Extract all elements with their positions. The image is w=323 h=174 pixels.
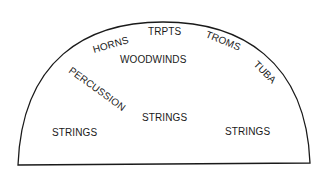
label-woodwinds: WOODWINDS bbox=[120, 54, 187, 65]
label-tuba: TUBA bbox=[252, 59, 279, 86]
label-strings-right: STRINGS bbox=[225, 126, 270, 137]
stage-semicircle-outline bbox=[18, 22, 310, 165]
label-horns: HORNS bbox=[92, 34, 130, 55]
label-strings-center: STRINGS bbox=[142, 112, 187, 123]
label-trombones: TROMS bbox=[204, 29, 242, 53]
label-percussion: PERCUSSION bbox=[67, 65, 128, 113]
orchestra-diagram: HORNS TRPTS TROMS TUBA WOODWINDS PERCUSS… bbox=[0, 0, 323, 174]
label-strings-left: STRINGS bbox=[52, 127, 97, 138]
label-trumpets: TRPTS bbox=[148, 26, 182, 37]
